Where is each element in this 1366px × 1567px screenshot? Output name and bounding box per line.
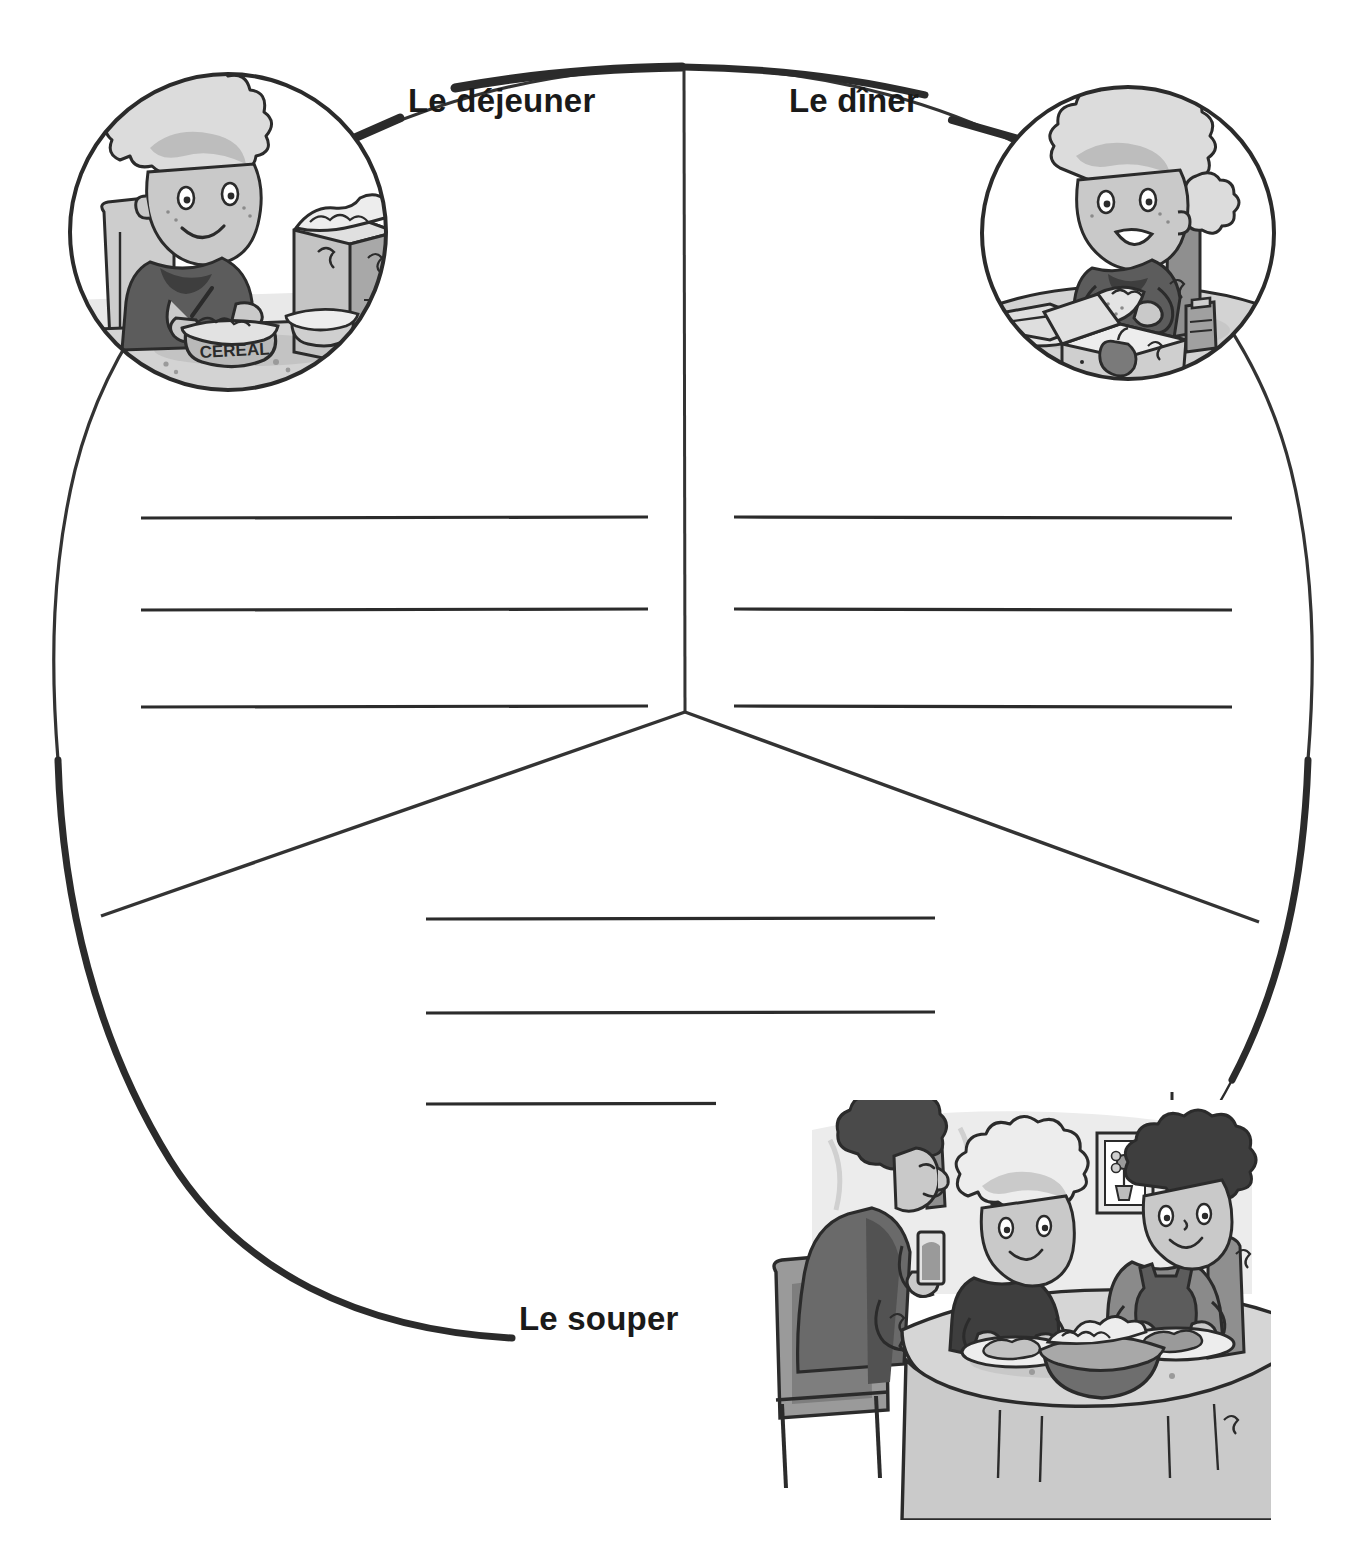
supper-family-dinner-illustration bbox=[0, 0, 1366, 1567]
worksheet-page: Les repas bbox=[0, 0, 1366, 1567]
section-label-dejeuner: Le déjeuner bbox=[408, 82, 595, 120]
section-label-diner: Le dîner bbox=[789, 82, 919, 120]
section-label-souper: Le souper bbox=[519, 1300, 679, 1338]
